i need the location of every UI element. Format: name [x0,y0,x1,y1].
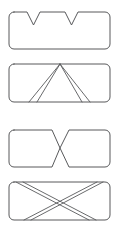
panel-4-rounded-rectangle-double-line-x [9,182,110,220]
shapes-diagram-svg [0,0,122,232]
panel-2-outline [9,64,110,102]
diagram-canvas [0,0,122,232]
panel-3-outline [9,130,110,167]
panel-3-rounded-rectangle-bowtie-notch [9,130,110,167]
panel-2-rounded-rectangle-double-line-lambda [9,64,110,102]
panel-1-rounded-rectangle-two-top-v-notches [9,12,110,49]
panel-1-outline [9,12,110,49]
